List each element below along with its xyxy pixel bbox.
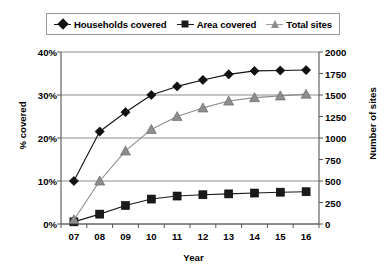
data-point-triangle xyxy=(172,112,182,121)
y-axis-right-ticks: 025050075010001250150017502000 xyxy=(325,52,375,224)
series-line xyxy=(74,94,306,220)
x-axis-tick-label: 13 xyxy=(223,231,234,242)
chart-figure: Households covered Area covered Total si… xyxy=(0,0,387,276)
data-point-square xyxy=(96,210,104,218)
legend-label-area: Area covered xyxy=(197,19,257,30)
y-axis-left-tick-label: 20% xyxy=(38,133,57,144)
x-axis-tick-label: 08 xyxy=(94,231,105,242)
y-axis-left-tick-label: 40% xyxy=(38,47,57,58)
data-point-square xyxy=(147,195,155,203)
plot-area xyxy=(61,52,319,224)
legend-item-total-sites: Total sites xyxy=(266,19,332,30)
y-axis-left-ticks: 0%10%20%30%40% xyxy=(14,52,57,224)
x-axis-tick-label: 07 xyxy=(69,231,80,242)
data-point-diamond xyxy=(250,66,259,75)
legend-item-households: Households covered xyxy=(54,19,167,30)
x-axis-tick-label: 10 xyxy=(146,231,157,242)
legend-item-area: Area covered xyxy=(177,19,257,30)
series-line xyxy=(74,70,306,181)
square-marker-icon xyxy=(177,20,194,29)
plot-svg xyxy=(61,52,319,224)
legend-label-households: Households covered xyxy=(74,19,167,30)
data-point-diamond xyxy=(173,82,182,91)
data-point-square xyxy=(122,202,130,210)
x-axis-tick-label: 16 xyxy=(301,231,312,242)
data-point-diamond xyxy=(198,75,207,84)
data-point-square xyxy=(302,188,310,196)
x-axis-tick-label: 15 xyxy=(275,231,286,242)
y-axis-right-tick-label: 1750 xyxy=(325,68,346,79)
y-axis-right-tick-label: 500 xyxy=(325,176,341,187)
data-point-square xyxy=(199,191,207,199)
y-axis-right-tick-label: 1500 xyxy=(325,90,346,101)
legend-label-total-sites: Total sites xyxy=(286,19,332,30)
data-point-diamond xyxy=(121,108,130,117)
data-point-square xyxy=(276,188,284,196)
data-point-triangle xyxy=(121,146,131,155)
x-axis-tick-label: 12 xyxy=(198,231,209,242)
data-point-square xyxy=(173,192,181,200)
data-point-diamond xyxy=(147,90,156,99)
data-point-diamond xyxy=(276,66,285,75)
y-axis-right-tick-label: 2000 xyxy=(325,47,346,58)
data-point-diamond xyxy=(302,65,311,74)
data-point-square xyxy=(251,189,259,197)
chart-legend: Households covered Area covered Total si… xyxy=(46,13,340,35)
x-axis-tick-label: 11 xyxy=(172,231,182,242)
y-axis-left-tick-label: 30% xyxy=(38,90,57,101)
y-axis-right-tick-label: 1000 xyxy=(325,133,346,144)
y-axis-left-tick-label: 0% xyxy=(43,219,57,230)
data-point-triangle xyxy=(146,124,156,133)
data-point-square xyxy=(225,190,233,198)
y-axis-right-tick-label: 1250 xyxy=(325,111,346,122)
x-axis-tick-label: 14 xyxy=(249,231,260,242)
y-axis-right-tick-label: 250 xyxy=(325,197,341,208)
diamond-marker-icon xyxy=(54,20,71,29)
triangle-marker-icon xyxy=(266,20,283,29)
data-point-diamond xyxy=(224,70,233,79)
x-axis-ticks: 07080910111213141516 xyxy=(61,231,319,247)
x-axis-title: Year xyxy=(0,252,387,263)
series-line xyxy=(74,192,306,222)
y-axis-right-tick-label: 0 xyxy=(325,219,330,230)
y-axis-right-tick-label: 750 xyxy=(325,154,341,165)
data-point-diamond xyxy=(69,176,78,185)
data-point-diamond xyxy=(95,127,104,136)
y-axis-left-tick-label: 10% xyxy=(38,176,57,187)
data-point-triangle xyxy=(301,89,311,98)
x-axis-tick-label: 09 xyxy=(120,231,131,242)
